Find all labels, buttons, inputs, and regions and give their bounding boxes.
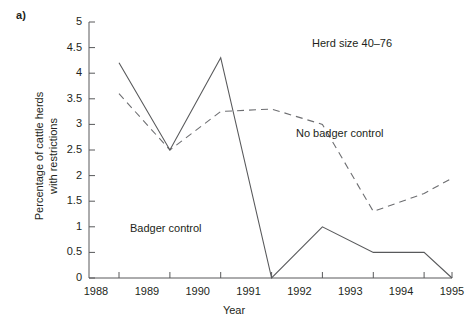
y-tick-label: 4.5 (48, 41, 82, 53)
x-tick-label: 1993 (327, 285, 373, 297)
y-tick-label: 0 (48, 271, 82, 283)
y-axis-title-line2: with restrictions (47, 118, 59, 194)
y-tick-label: 0.5 (48, 245, 82, 257)
x-tick-label: 1988 (73, 285, 119, 297)
series-label-badger-control: Badger control (130, 222, 202, 234)
y-tick-label: 1.5 (48, 194, 82, 206)
y-tick-label: 4 (48, 66, 82, 78)
y-tick-label: 2.5 (48, 143, 82, 155)
x-tick-label: 1995 (429, 285, 468, 297)
y-tick-label: 1 (48, 220, 82, 232)
series-line-badger-control (119, 58, 452, 278)
chart-figure: a) Herd size 40–76 Percentage of cattle … (0, 0, 468, 331)
x-axis-ticks (119, 272, 452, 278)
x-axis-title: Year (0, 304, 468, 316)
x-tick-label: 1992 (276, 285, 322, 297)
y-tick-label: 3.5 (48, 92, 82, 104)
y-axis-ticks (89, 22, 95, 278)
series-line-no-badger-control (119, 94, 452, 212)
x-tick-label: 1991 (226, 285, 272, 297)
x-tick-label: 1994 (378, 285, 424, 297)
y-tick-label: 2 (48, 169, 82, 181)
y-tick-label: 3 (48, 117, 82, 129)
x-tick-label: 1990 (175, 285, 221, 297)
y-axis-title-line1: Percentage of cattle herds (33, 92, 45, 220)
panel-label: a) (16, 9, 26, 21)
x-tick-label: 1989 (124, 285, 170, 297)
y-tick-label: 5 (48, 15, 82, 27)
series-label-no-badger-control: No badger control (296, 127, 383, 139)
herd-size-note: Herd size 40–76 (312, 37, 392, 49)
